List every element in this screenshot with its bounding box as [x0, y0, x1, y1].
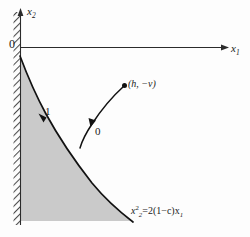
terminal-point-marker	[122, 83, 127, 88]
x-axis-label: x1	[231, 43, 240, 57]
x-axis	[20, 45, 229, 51]
shaded-region	[20, 56, 132, 221]
terminal-point-label: (h, −v)	[128, 79, 156, 89]
region-1-label: 1	[45, 106, 51, 117]
region-0-label: 0	[95, 126, 101, 137]
optimal-trajectory	[80, 86, 124, 148]
figure-container: x2 x1 0 1 0 (h, −v) x22=2(1−c)x1	[0, 0, 250, 237]
curve-equation-label: x22=2(1−c)x1	[131, 205, 183, 219]
y-axis-label: x2	[27, 6, 36, 20]
diagram-canvas	[0, 0, 250, 237]
origin-label: 0	[9, 38, 15, 50]
